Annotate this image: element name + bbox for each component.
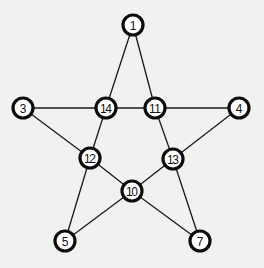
node-label: 13 [167, 153, 179, 167]
node-label: 12 [84, 152, 96, 166]
node-3: 3 [13, 98, 33, 118]
node-12: 12 [80, 148, 100, 168]
edge-10-7 [132, 191, 200, 241]
node-4: 4 [229, 98, 249, 118]
edge-13-7 [173, 159, 200, 241]
node-label: 7 [197, 235, 204, 249]
node-label: 4 [236, 102, 243, 116]
star-graph-diagram: 131411412131057 [0, 0, 264, 268]
node-11: 11 [145, 98, 165, 118]
edge-10-5 [65, 191, 132, 241]
edge-12-5 [65, 158, 90, 241]
node-label: 3 [20, 102, 27, 116]
edges-layer [23, 25, 239, 241]
edge-4-13 [173, 108, 239, 159]
edge-1-14 [106, 25, 133, 108]
node-10: 10 [122, 181, 142, 201]
graph-svg: 131411412131057 [0, 0, 264, 268]
node-label: 14 [100, 102, 112, 116]
node-5: 5 [55, 231, 75, 251]
node-1: 1 [123, 15, 143, 35]
node-label: 1 [130, 19, 137, 33]
node-14: 14 [96, 98, 116, 118]
node-label: 11 [149, 102, 161, 116]
node-7: 7 [190, 231, 210, 251]
node-label: 10 [126, 185, 138, 199]
edge-3-12 [23, 108, 90, 158]
nodes-layer: 131411412131057 [13, 15, 249, 251]
node-13: 13 [163, 149, 183, 169]
edge-1-11 [133, 25, 155, 108]
node-label: 5 [62, 235, 69, 249]
